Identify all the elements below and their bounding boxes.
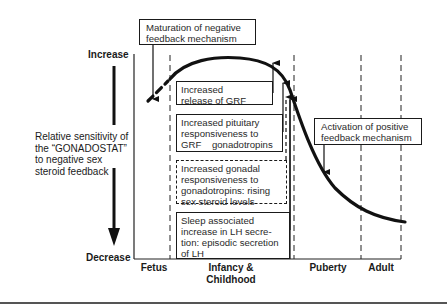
box-gonadal-responsiveness: Increased gonadal responsiveness to gona… xyxy=(176,160,287,204)
box-pituitary-responsiveness: Increased pituitary responsiveness to GR… xyxy=(176,114,283,152)
stage-adult: Adult xyxy=(364,262,398,274)
activation-callout: Activation of positive feedback mechanis… xyxy=(314,118,422,145)
y-axis-title: Relative sensitivity of the “GONADOSTAT”… xyxy=(35,131,128,177)
box-grf-release: Increased release of GRF xyxy=(176,81,273,105)
box-sleep-lh-secretion: Sleep associated increase in LH secre- t… xyxy=(176,212,290,259)
stage-fetus: Fetus xyxy=(138,262,170,274)
axis-increase-label: Increase xyxy=(88,49,129,61)
maturation-callout: Maturation of negative feedback mechanis… xyxy=(139,19,256,45)
bottom-separator xyxy=(0,302,447,304)
stage-infancy-childhood: Infancy & Childhood xyxy=(195,262,267,285)
stage-puberty: Puberty xyxy=(302,262,354,274)
axis-decrease-label: Decrease xyxy=(86,252,130,264)
